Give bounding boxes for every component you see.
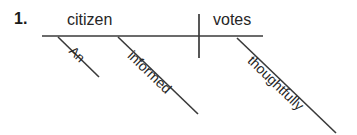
diagram-lines	[0, 0, 357, 135]
sentence-diagram: 1. citizen votes An informed thoughtfull…	[0, 0, 357, 135]
subject-word: citizen	[67, 10, 112, 29]
item-number: 1.	[14, 9, 27, 28]
verb-word: votes	[213, 10, 251, 29]
